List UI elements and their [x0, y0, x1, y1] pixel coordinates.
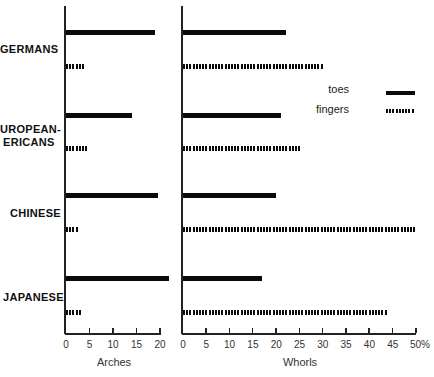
- group-label-european-americans-line1: UROPEAN-: [0, 123, 61, 136]
- arches-bar-toes: [66, 113, 132, 118]
- whorls-bar-fingers: [183, 227, 416, 232]
- whorls-tick-label: 40: [364, 339, 375, 350]
- arches-bar-toes: [66, 30, 155, 35]
- arches-tick-label: 10: [107, 339, 118, 350]
- whorls-tick-label: 25: [294, 339, 305, 350]
- whorls-tick: [345, 328, 347, 333]
- whorls-x-axis: [182, 333, 416, 335]
- arches-bar-fingers: [66, 64, 85, 69]
- whorls-tick: [392, 328, 394, 333]
- arches-bar-fingers: [66, 146, 87, 151]
- arches-tick: [136, 328, 138, 333]
- legend-swatch-fingers: [386, 109, 415, 113]
- arches-tick-label: 15: [131, 339, 142, 350]
- whorls-tick-label: 30: [317, 339, 328, 350]
- arches-bar-toes: [66, 193, 158, 198]
- arches-tick-label: 20: [154, 339, 165, 350]
- whorls-y-axis: [181, 6, 183, 334]
- arches-tick-label: 5: [87, 339, 93, 350]
- whorls-bar-toes: [183, 113, 281, 118]
- whorls-tick-label: 0: [180, 339, 186, 350]
- legend-label-toes: toes: [328, 83, 349, 95]
- whorls-tick: [415, 328, 417, 333]
- whorls-tick: [322, 328, 324, 333]
- arches-bar-fingers: [66, 227, 78, 232]
- legend-label-fingers: fingers: [316, 103, 349, 115]
- arches-tick: [89, 328, 91, 333]
- whorls-tick: [368, 328, 370, 333]
- arches-x-axis: [65, 333, 161, 335]
- whorls-tick-label: 15: [247, 339, 258, 350]
- whorls-axis-title: Whorls: [283, 356, 317, 368]
- group-label-european-americans-line2: ERICANS: [3, 136, 55, 149]
- whorls-tick-label: 10: [224, 339, 235, 350]
- group-label-japanese: JAPANESE: [3, 291, 64, 304]
- arches-axis-title: Arches: [97, 356, 131, 368]
- arches-bar-fingers: [66, 310, 82, 315]
- whorls-bar-toes: [183, 30, 286, 35]
- whorls-bar-toes: [183, 193, 276, 198]
- whorls-tick-label: 50%: [410, 339, 430, 350]
- arches-tick-label: 0: [63, 339, 69, 350]
- whorls-bar-toes: [183, 276, 262, 281]
- group-label-germans: GERMANS: [0, 43, 58, 56]
- whorls-tick-label: 5: [204, 339, 210, 350]
- arches-bar-toes: [66, 276, 169, 281]
- whorls-bar-fingers: [183, 146, 300, 151]
- whorls-bar-fingers: [183, 64, 323, 69]
- whorls-tick: [275, 328, 277, 333]
- legend-swatch-toes: [386, 91, 415, 95]
- whorls-tick: [299, 328, 301, 333]
- group-label-chinese: CHINESE: [10, 207, 61, 220]
- whorls-tick-label: 20: [271, 339, 282, 350]
- arches-y-axis: [64, 6, 66, 334]
- whorls-bar-fingers: [183, 310, 388, 315]
- arches-tick: [112, 328, 114, 333]
- whorls-tick: [205, 328, 207, 333]
- whorls-tick-label: 45: [387, 339, 398, 350]
- arches-tick: [159, 328, 161, 333]
- whorls-tick-label: 35: [341, 339, 352, 350]
- whorls-tick: [252, 328, 254, 333]
- whorls-tick: [229, 328, 231, 333]
